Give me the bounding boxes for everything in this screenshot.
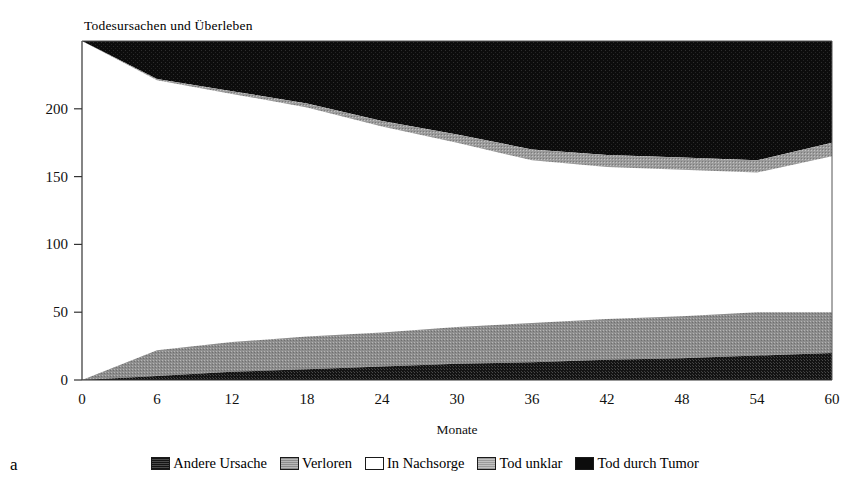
chart-legend: Andere UrsacheVerlorenIn NachsorgeTod un… xyxy=(0,455,850,472)
x-axis-title: Monate xyxy=(436,422,477,437)
legend-swatch-icon xyxy=(365,457,384,470)
x-tick-label: 54 xyxy=(750,391,766,407)
legend-item: Tod durch Tumor xyxy=(575,455,698,472)
x-tick-label: 42 xyxy=(600,391,615,407)
legend-item: Andere Ursache xyxy=(151,455,267,472)
x-axis-ticks: 06121824303642485460 xyxy=(78,391,839,407)
x-tick-label: 24 xyxy=(375,391,391,407)
plot-area-bands xyxy=(82,41,832,380)
x-tick-label: 12 xyxy=(225,391,240,407)
legend-label: Tod unklar xyxy=(499,455,562,472)
legend-label: In Nachsorge xyxy=(387,455,464,472)
x-tick-label: 48 xyxy=(675,391,690,407)
legend-label: Tod durch Tumor xyxy=(597,455,698,472)
y-tick-label: 50 xyxy=(53,304,68,320)
legend-swatch-icon xyxy=(280,457,299,470)
y-tick-label: 0 xyxy=(61,372,69,388)
stacked-area-chart: 050100150200 06121824303642485460 Monate xyxy=(0,0,850,500)
x-tick-label: 30 xyxy=(450,391,465,407)
y-axis-ticks: 050100150200 xyxy=(46,101,83,388)
x-tick-label: 18 xyxy=(300,391,315,407)
legend-swatch-icon xyxy=(477,457,496,470)
legend-item: In Nachsorge xyxy=(365,455,464,472)
legend-label: Verloren xyxy=(302,455,352,472)
y-tick-label: 150 xyxy=(46,169,69,185)
x-tick-label: 60 xyxy=(825,391,840,407)
figure-root: Todesursachen und Überleben xyxy=(0,0,850,500)
legend-item: Tod unklar xyxy=(477,455,562,472)
x-tick-label: 0 xyxy=(78,391,86,407)
y-tick-label: 100 xyxy=(46,236,69,252)
x-tick-label: 36 xyxy=(525,391,541,407)
legend-item: Verloren xyxy=(280,455,352,472)
legend-label: Andere Ursache xyxy=(173,455,267,472)
legend-swatch-icon xyxy=(151,457,170,470)
y-tick-label: 200 xyxy=(46,101,69,117)
x-tick-label: 6 xyxy=(153,391,161,407)
legend-swatch-icon xyxy=(575,457,594,470)
